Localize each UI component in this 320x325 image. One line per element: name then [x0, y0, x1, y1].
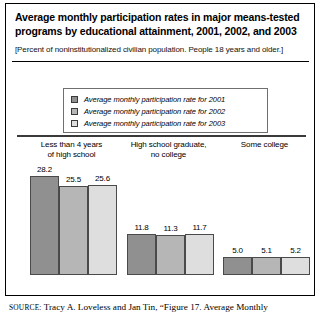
- chart-panel: Average monthly participation rates in m…: [5, 3, 315, 296]
- bar-item-2002[interactable]: 25.5: [59, 144, 88, 275]
- bar-rect-2003: [88, 185, 117, 275]
- bar-rect-2003: [281, 257, 310, 275]
- x-axis-labels: Less than 4 years of high school High sc…: [17, 140, 306, 162]
- legend-item-2002[interactable]: Average monthly participation rate for 2…: [71, 105, 267, 117]
- x-tick-line-2: of high school: [48, 150, 96, 159]
- bar-rect-2002: [156, 235, 185, 275]
- bar-rect-2003: [185, 234, 214, 275]
- bar-value-label: 25.5: [66, 175, 81, 184]
- source-label: SOURCE:: [9, 303, 42, 312]
- bar-value-label: 11.3: [163, 224, 177, 233]
- bar-item-2001[interactable]: 11.8: [127, 144, 156, 275]
- x-tick-line-1: High school graduate,: [131, 140, 207, 149]
- bar-item-2003[interactable]: 5.2: [281, 144, 310, 275]
- bar-item-2001[interactable]: 28.2: [30, 144, 59, 275]
- source-note: SOURCE: Tracy A. Loveless and Jan Tin, “…: [9, 302, 314, 313]
- bar-value-label: 5.0: [232, 246, 243, 255]
- bar-rect-2002: [252, 257, 281, 275]
- x-axis-line: [17, 135, 306, 137]
- title-block: Average monthly participation rates in m…: [15, 11, 303, 55]
- bar-item-2003[interactable]: 11.7: [185, 144, 214, 275]
- bar-rect-2001: [223, 257, 252, 275]
- bar-value-label: 25.6: [95, 174, 110, 183]
- chart-title-line-1: Average monthly participation rates in m…: [15, 11, 300, 23]
- source-text: Tracy A. Loveless and Jan Tin, “Figure 1…: [42, 302, 268, 312]
- chart-legend: Average monthly participation rate for 2…: [63, 88, 268, 133]
- x-tick-line-2: no college: [151, 150, 186, 159]
- legend-swatch-2001: [71, 96, 78, 103]
- bar-item-2002[interactable]: 5.1: [252, 144, 281, 275]
- chart-title-line-2: programs by educational attainment, 2001…: [15, 25, 297, 37]
- title-divider: [12, 61, 309, 62]
- bar-value-label: 11.8: [134, 223, 148, 232]
- legend-swatch-2002: [71, 108, 78, 115]
- figure-container: Average monthly participation rates in m…: [0, 0, 320, 325]
- bar-rect-2001: [30, 176, 59, 275]
- bar-rect-2001: [127, 234, 156, 275]
- legend-label-2003: Average monthly participation rate for 2…: [84, 119, 225, 128]
- page-title: Average monthly participation rates in m…: [15, 11, 303, 38]
- bar-item-2003[interactable]: 25.6: [88, 144, 117, 275]
- bar-rect-2002: [59, 186, 88, 275]
- legend-label-2001: Average monthly participation rate for 2…: [84, 95, 225, 104]
- legend-swatch-2003: [71, 120, 78, 127]
- legend-label-2002: Average monthly participation rate for 2…: [84, 107, 225, 116]
- x-tick-line-1: Some college: [241, 140, 288, 149]
- legend-item-2003[interactable]: Average monthly participation rate for 2…: [71, 118, 267, 130]
- legend-item-2001[interactable]: Average monthly participation rate for 2…: [71, 93, 267, 105]
- chart-subtitle: [Percent of noninstitutionalized civilia…: [15, 45, 303, 55]
- x-tick-line-1: Less than 4 years: [41, 140, 102, 149]
- bar-item-2002[interactable]: 11.3: [156, 144, 185, 275]
- bar-value-label: 5.1: [261, 246, 272, 255]
- bar-value-label: 11.7: [192, 223, 206, 232]
- bar-value-label: 5.2: [290, 246, 301, 255]
- plot-area: 28.2 25.5 25.6 11.8: [22, 144, 311, 275]
- bar-item-2001[interactable]: 5.0: [223, 144, 252, 275]
- x-tick-label-some-college: Some college: [202, 140, 320, 150]
- bar-value-label: 28.2: [37, 165, 52, 174]
